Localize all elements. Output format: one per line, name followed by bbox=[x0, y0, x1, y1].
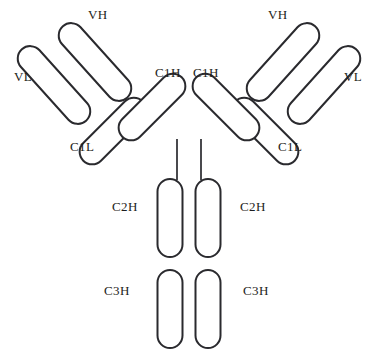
label-c1l-left: C1L bbox=[70, 140, 94, 153]
antibody-structure-svg bbox=[0, 0, 378, 358]
domain-c3h-right bbox=[196, 270, 221, 348]
domain-c2h-left bbox=[158, 179, 183, 257]
label-c1l-right: C1L bbox=[278, 140, 302, 153]
label-c2h-right: C2H bbox=[240, 200, 266, 213]
label-vl-left: VL bbox=[14, 70, 32, 83]
label-c3h-right: C3H bbox=[243, 284, 269, 297]
domain-c2h-right bbox=[196, 179, 221, 257]
label-vh-left: VH bbox=[88, 8, 108, 21]
label-c2h-left: C2H bbox=[112, 200, 138, 213]
label-c1h-right: C1H bbox=[193, 66, 219, 79]
antibody-diagram-canvas: VH VL C1H C1L C2H C3H VH VL C1H C1L C2H … bbox=[0, 0, 378, 358]
label-vh-right: VH bbox=[268, 8, 288, 21]
domain-c3h-left bbox=[158, 270, 183, 348]
label-c3h-left: C3H bbox=[104, 284, 130, 297]
label-c1h-left: C1H bbox=[155, 66, 181, 79]
label-vl-right: VL bbox=[344, 70, 362, 83]
